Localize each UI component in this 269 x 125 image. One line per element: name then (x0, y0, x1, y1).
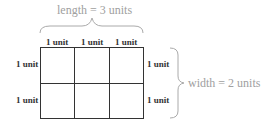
col-label: 1 unit (115, 37, 137, 47)
row-label-left: 1 unit (16, 59, 38, 69)
width-brace (170, 48, 184, 118)
rectangle-diagram (0, 0, 269, 125)
col-label: 1 unit (46, 37, 68, 47)
grid (41, 48, 144, 119)
length-label: length = 3 units (57, 3, 132, 18)
row-label-right: 1 unit (147, 59, 169, 69)
col-label: 1 unit (81, 37, 103, 47)
width-label: width = 2 units (188, 76, 260, 91)
row-label-left: 1 unit (16, 95, 38, 105)
length-brace (40, 18, 143, 33)
row-label-right: 1 unit (147, 95, 169, 105)
